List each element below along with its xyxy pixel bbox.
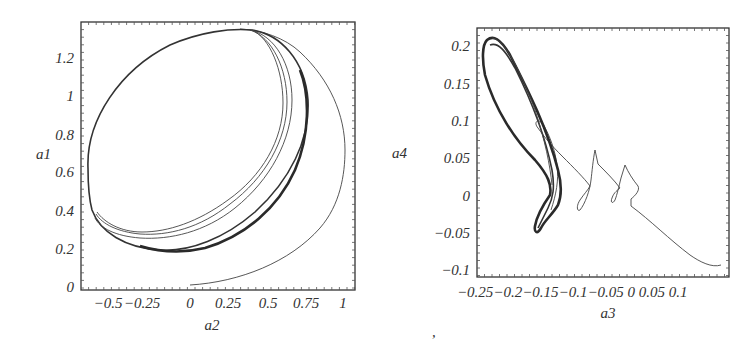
x-tick-label: 1 [339,295,347,311]
left-minor-ticks [81,22,355,290]
x-tick-label: −0.5 [94,295,123,311]
left-x-tick-labels: −0.5−0.2500.250.50.751 [94,295,347,311]
left-limit-cycle-main [140,70,307,252]
left-y-axis-label: a1 [36,146,51,162]
y-tick-label: −0.1 [441,262,470,278]
right-plot: 0.20.150.10.050−0.05−0.1 −0.25−0.2−0.15−… [392,28,729,321]
stray-comma-mark: , [432,324,436,340]
x-tick-label: 0.5 [259,295,278,311]
y-tick-label: 0 [463,188,471,204]
left-y-tick-labels: 00.20.40.60.811.2 [55,50,74,295]
y-tick-label: −0.05 [434,225,471,241]
y-tick-label: 0.4 [55,203,74,219]
y-tick-label: 1 [67,88,75,104]
x-tick-label: −0.25 [124,295,161,311]
left-limit-cycle-outer [88,30,308,251]
y-tick-label: 0.2 [451,38,470,54]
y-tick-label: 0.8 [55,127,74,143]
y-tick-label: 0 [67,279,75,295]
left-limit-cycle-inner-2 [96,30,287,234]
x-tick-label: 0.25 [215,295,242,311]
right-y-tick-labels: 0.20.150.10.050−0.05−0.1 [434,38,471,278]
figure: 00.20.40.60.811.2 −0.5−0.2500.250.50.751… [0,0,756,355]
left-plot: 00.20.40.60.811.2 −0.5−0.2500.250.50.751… [36,22,355,333]
right-attractor-inner [490,44,553,228]
left-x-axis-label: a2 [205,317,221,333]
x-tick-label: 0 [186,295,194,311]
right-transient-curve [536,121,721,266]
y-tick-label: 1.2 [55,50,74,66]
y-tick-label: 0.05 [444,150,471,166]
x-tick-label: 0.75 [293,295,320,311]
y-tick-label: 0.6 [55,164,74,180]
y-tick-label: 0.15 [444,76,471,92]
left-plot-frame [81,22,355,290]
left-limit-cycle-inner-1 [95,30,292,238]
left-limit-cycle-inner-3 [97,30,283,232]
right-y-axis-label: a4 [392,145,408,161]
right-x-axis-label: a3 [601,305,616,321]
y-tick-label: 0.1 [451,113,470,129]
y-tick-label: 0.2 [55,241,74,257]
right-attractor-loop [483,38,561,232]
right-x-tick-labels: −0.25−0.2−0.15−0.1−0.05 0 0.05 0.1 [457,284,688,300]
